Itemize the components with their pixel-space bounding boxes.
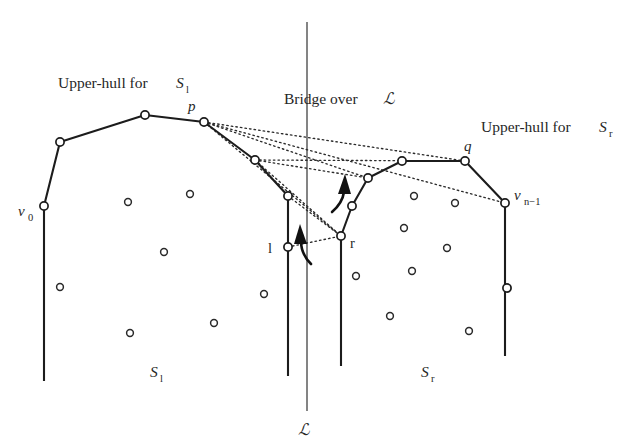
set-label-left: S <box>150 363 158 380</box>
upper-hull-right-vertices <box>337 157 511 292</box>
site-dot <box>57 284 64 291</box>
bridge-candidate-lines-group <box>204 122 505 247</box>
site-dot <box>187 191 194 198</box>
site-dot <box>387 313 394 320</box>
site-dot <box>125 199 132 206</box>
hull-vertex-right-2 <box>364 174 372 182</box>
vertex-label-vn1-group: v n−1 <box>514 187 540 207</box>
hull-vertex-v0 <box>40 202 48 210</box>
vertex-label-l: l <box>268 240 272 256</box>
set-label-right: S <box>421 363 429 380</box>
vertex-label-v0: v <box>18 203 25 219</box>
set-label-left-sub: l <box>160 373 163 384</box>
pointer-arrow-lower <box>294 224 311 264</box>
hull-vertex-right-3 <box>398 157 406 165</box>
caption-bridge: Bridge over ℒ <box>284 89 395 108</box>
interior-sites-right-group <box>353 193 473 335</box>
figure-canvas: Upper-hull for S l Bridge over ℒ Upper-h… <box>0 0 640 444</box>
dotted-lupper-to-r <box>288 196 341 236</box>
site-dot <box>411 193 418 200</box>
site-dot <box>161 249 168 256</box>
hull-vertex-right-stem-point <box>503 284 511 292</box>
caption-upper-hull-left-sub: l <box>186 84 189 95</box>
axis-label-L: ℒ <box>298 420 310 439</box>
site-dot <box>211 320 218 327</box>
caption-upper-hull-right-text: Upper-hull for <box>481 118 571 135</box>
pointer-arrow-upper-tail <box>332 192 344 212</box>
site-dot <box>452 200 459 207</box>
site-dot <box>444 245 451 252</box>
hull-vertex-l <box>284 243 292 251</box>
caption-upper-hull-left: Upper-hull for S l <box>58 74 189 95</box>
vertex-label-q: q <box>464 138 472 154</box>
pointer-arrow-upper-head <box>338 174 351 194</box>
vertex-label-v0-sub: 0 <box>28 212 33 223</box>
hull-vertex-left-4 <box>251 156 259 164</box>
pointer-arrow-lower-head <box>294 224 307 244</box>
hull-vertex-p <box>200 118 208 126</box>
hull-vertex-right-1 <box>348 202 356 210</box>
caption-upper-hull-right: Upper-hull for S r <box>481 118 613 139</box>
hull-vertex-left-1 <box>56 138 64 146</box>
caption-upper-hull-left-set: S <box>176 74 184 91</box>
caption-bridge-text: Bridge over <box>284 90 358 107</box>
caption-bridge-script-l: ℒ <box>383 89 395 108</box>
upper-hull-left-vertices <box>40 111 292 251</box>
vertex-label-vn1: v <box>514 187 521 203</box>
site-dot <box>261 291 268 298</box>
upper-hull-right-chain <box>341 161 505 236</box>
hull-vertex-vn1 <box>501 199 509 207</box>
site-dot <box>353 273 360 280</box>
site-dot <box>466 328 473 335</box>
upper-hull-bridge-figure: Upper-hull for S l Bridge over ℒ Upper-h… <box>0 0 640 444</box>
vertex-label-p: p <box>187 98 196 114</box>
set-label-right-group: S r <box>421 363 435 384</box>
site-dot <box>127 330 134 337</box>
hull-vertex-left-5 <box>284 192 292 200</box>
hull-vertex-r <box>337 232 345 240</box>
vertex-label-vn1-sub: n−1 <box>524 196 540 207</box>
dotted-p-to-rupper <box>204 122 368 178</box>
caption-upper-hull-right-sub: r <box>609 128 613 139</box>
hull-vertex-left-2 <box>141 111 149 119</box>
vertical-stems-group <box>44 203 505 381</box>
upper-hull-left-chain <box>44 115 288 247</box>
site-dot <box>401 225 408 232</box>
site-dot <box>409 268 416 275</box>
set-label-right-sub: r <box>431 373 435 384</box>
vertex-label-v0-group: v 0 <box>18 203 33 223</box>
caption-upper-hull-right-set: S <box>599 118 607 135</box>
set-label-left-group: S l <box>150 363 163 384</box>
dotted-p-to-vn1 <box>204 122 505 203</box>
hull-vertex-q <box>461 157 469 165</box>
caption-upper-hull-left-text: Upper-hull for <box>58 74 148 91</box>
vertex-label-r: r <box>350 235 355 251</box>
interior-sites-left-group <box>57 191 268 337</box>
